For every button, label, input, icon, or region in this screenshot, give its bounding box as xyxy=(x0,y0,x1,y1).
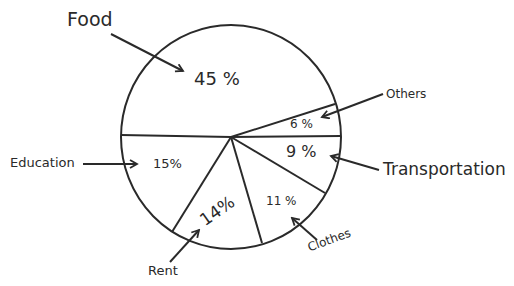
label-education: Education xyxy=(10,156,75,169)
label-rent: Rent xyxy=(148,264,178,277)
label-transportation: Transportation xyxy=(383,161,506,178)
pie-chart xyxy=(0,0,514,286)
value-clothes: 11 % xyxy=(266,195,297,207)
value-education: 15% xyxy=(153,157,182,170)
label-food: Food xyxy=(67,10,113,29)
value-food: 45 % xyxy=(194,70,240,88)
value-transportation: 9 % xyxy=(286,144,316,160)
label-others: Others xyxy=(386,88,426,100)
value-others: 6 % xyxy=(290,118,313,130)
